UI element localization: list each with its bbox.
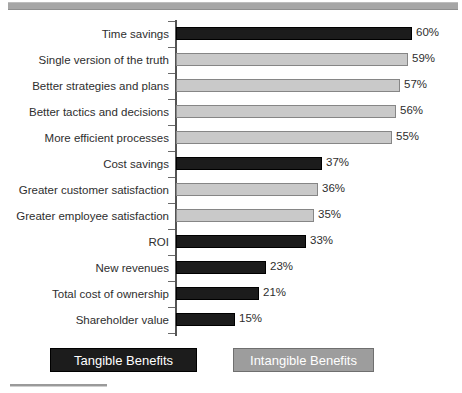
- bar-tangible[interactable]: [176, 287, 259, 300]
- bar-value-label: 37%: [326, 156, 349, 168]
- category-label: Cost savings: [0, 151, 169, 177]
- bar-value-label: 36%: [322, 182, 345, 194]
- bar-row: Cost savings37%: [0, 151, 462, 177]
- bar-row: Better tactics and decisions56%: [0, 99, 462, 125]
- footer-divider: [10, 384, 107, 387]
- category-label: Single version of the truth: [0, 47, 169, 73]
- bar-value-label: 59%: [412, 52, 435, 64]
- category-label: Shareholder value: [0, 307, 169, 333]
- category-label: Time savings: [0, 21, 169, 47]
- category-label: Greater employee satisfaction: [0, 203, 169, 229]
- category-label: More efficient processes: [0, 125, 169, 151]
- category-label: Better strategies and plans: [0, 73, 169, 99]
- category-label: Total cost of ownership: [0, 281, 169, 307]
- bar-tangible[interactable]: [176, 261, 266, 274]
- bar-value-label: 15%: [239, 312, 262, 324]
- bar-tangible[interactable]: [176, 235, 306, 248]
- bar-value-label: 60%: [416, 26, 439, 38]
- category-label: Better tactics and decisions: [0, 99, 169, 125]
- bar-tangible[interactable]: [176, 157, 322, 170]
- bar-value-label: 56%: [400, 104, 423, 116]
- bar-intangible[interactable]: [176, 183, 318, 196]
- bar-tangible[interactable]: [176, 27, 412, 40]
- bar-row: Greater employee satisfaction35%: [0, 203, 462, 229]
- legend-item-intangible[interactable]: Intangible Benefits: [233, 348, 374, 372]
- category-label: ROI: [0, 229, 169, 255]
- bar-row: ROI33%: [0, 229, 462, 255]
- chart-legend: Tangible Benefits Intangible Benefits: [0, 348, 462, 376]
- bar-intangible[interactable]: [176, 105, 396, 118]
- bar-intangible[interactable]: [176, 79, 400, 92]
- bar-row: Shareholder value15%: [0, 307, 462, 333]
- bar-row: Better strategies and plans57%: [0, 73, 462, 99]
- bar-row: Single version of the truth59%: [0, 47, 462, 73]
- bar-tangible[interactable]: [176, 313, 235, 326]
- legend-item-tangible[interactable]: Tangible Benefits: [50, 348, 197, 372]
- bar-row: More efficient processes55%: [0, 125, 462, 151]
- bar-intangible[interactable]: [176, 131, 392, 144]
- bar-value-label: 21%: [263, 286, 286, 298]
- bar-value-label: 57%: [404, 78, 427, 90]
- category-label: Greater customer satisfaction: [0, 177, 169, 203]
- bar-value-label: 33%: [310, 234, 333, 246]
- horizontal-bar-chart: Time savings60%Single version of the tru…: [0, 0, 462, 345]
- bar-intangible[interactable]: [176, 209, 314, 222]
- axis-tick: [168, 333, 175, 334]
- bar-row: Time savings60%: [0, 21, 462, 47]
- bar-value-label: 35%: [318, 208, 341, 220]
- bar-row: Total cost of ownership21%: [0, 281, 462, 307]
- bar-value-label: 23%: [270, 260, 293, 272]
- bar-value-label: 55%: [396, 130, 419, 142]
- category-label: New revenues: [0, 255, 169, 281]
- bar-row: Greater customer satisfaction36%: [0, 177, 462, 203]
- bar-intangible[interactable]: [176, 53, 408, 66]
- bar-row: New revenues23%: [0, 255, 462, 281]
